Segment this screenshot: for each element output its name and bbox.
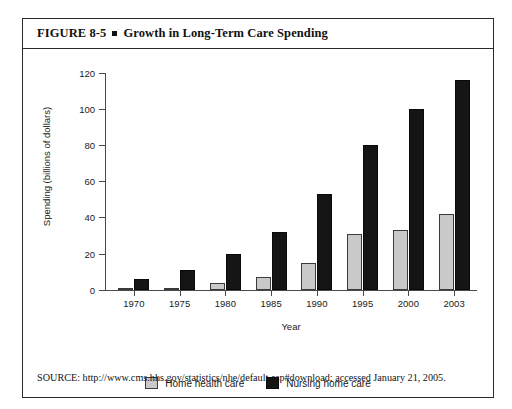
y-axis-tick-label: 80 <box>84 140 95 151</box>
y-axis-tick <box>99 73 105 74</box>
bar-nursing-home-care-1975 <box>180 270 195 290</box>
source-note: SOURCE: http://www.cms.hhs.gov/statistic… <box>37 371 481 384</box>
y-axis-tick-label: 20 <box>84 248 95 259</box>
bar-home-health-care-1995 <box>347 234 362 290</box>
square-bullet-icon <box>112 31 117 36</box>
y-axis-tick-label: 0 <box>90 284 95 295</box>
x-axis-line <box>105 290 477 291</box>
page-title: Growth in Long-Term Care Spending <box>123 26 328 40</box>
y-axis-tick <box>99 109 105 110</box>
figure-title-text: FIGURE 8-5Growth in Long-Term Care Spend… <box>37 26 328 41</box>
x-axis-tick-label: 2000 <box>398 298 419 309</box>
bar-home-health-care-1985 <box>256 277 271 290</box>
x-axis-tick-label: 2003 <box>444 298 465 309</box>
x-axis-tick <box>134 291 135 296</box>
y-axis-line <box>105 73 106 291</box>
bar-nursing-home-care-1970 <box>134 279 149 290</box>
bar-home-health-care-1970 <box>118 288 133 290</box>
bar-home-health-care-1980 <box>210 283 225 289</box>
y-axis-title: Spending (billions of dollars) <box>41 82 52 252</box>
chart-region: Spending (billions of dollars) 020406080… <box>23 49 493 349</box>
x-axis-tick-label: 1985 <box>261 298 282 309</box>
x-axis-tick <box>363 291 364 296</box>
x-axis-tick <box>180 291 181 296</box>
y-axis-tick-label: 120 <box>79 68 95 79</box>
bar-nursing-home-care-2003 <box>455 80 470 289</box>
bar-nursing-home-care-1980 <box>226 254 241 290</box>
y-axis-tick <box>99 290 105 291</box>
bar-nursing-home-care-1995 <box>363 145 378 289</box>
plot-area: 020406080100120 197019751980198519901995… <box>105 73 477 291</box>
x-axis-tick-label: 1975 <box>169 298 190 309</box>
x-axis-tick-label: 1995 <box>352 298 373 309</box>
y-axis-tick-label: 100 <box>79 104 95 115</box>
y-axis-tick <box>99 145 105 146</box>
bar-home-health-care-1975 <box>164 288 179 290</box>
x-axis-tick <box>225 291 226 296</box>
bar-nursing-home-care-1985 <box>272 232 287 290</box>
x-axis-title: Year <box>105 321 477 332</box>
figure-number: FIGURE 8-5 <box>37 26 106 40</box>
bar-home-health-care-2003 <box>439 214 454 290</box>
y-axis-tick <box>99 217 105 218</box>
x-axis-tick <box>317 291 318 296</box>
figure-box: FIGURE 8-5Growth in Long-Term Care Spend… <box>22 18 494 398</box>
y-axis-tick-label: 40 <box>84 212 95 223</box>
x-axis-tick-label: 1980 <box>215 298 236 309</box>
y-axis-tick-label: 60 <box>84 176 95 187</box>
y-axis-tick <box>99 254 105 255</box>
x-axis-tick-label: 1990 <box>306 298 327 309</box>
figure-title-bar: FIGURE 8-5Growth in Long-Term Care Spend… <box>23 19 493 49</box>
bar-nursing-home-care-2000 <box>409 109 424 290</box>
x-axis-tick-label: 1970 <box>123 298 144 309</box>
y-axis-tick <box>99 181 105 182</box>
bar-nursing-home-care-1990 <box>317 194 332 290</box>
x-axis-tick <box>454 291 455 296</box>
x-axis-tick <box>271 291 272 296</box>
x-axis-tick <box>408 291 409 296</box>
bar-home-health-care-1990 <box>301 263 316 290</box>
bar-home-health-care-2000 <box>393 230 408 290</box>
